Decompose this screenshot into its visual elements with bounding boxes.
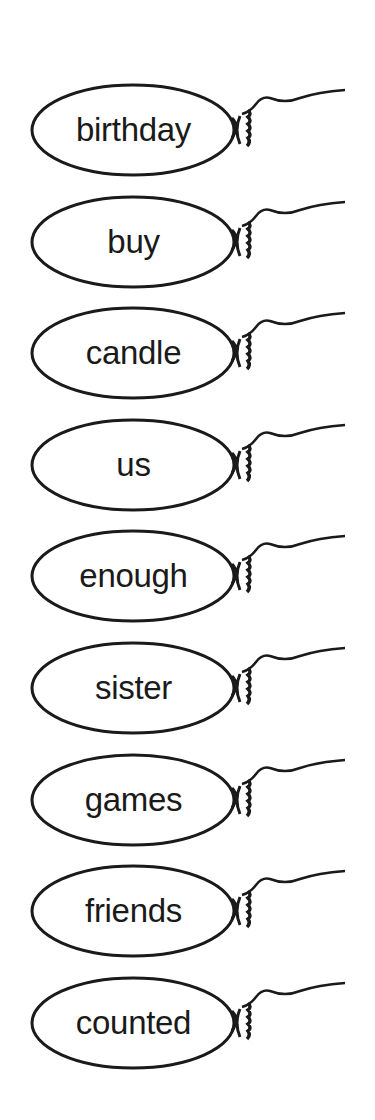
balloon-word-list: birthday buy candle us enough sister gam…	[0, 0, 375, 1120]
balloon-word: buy	[32, 214, 235, 270]
balloon: birthday	[0, 74, 375, 186]
balloon-word: counted	[32, 995, 235, 1051]
balloon-word: birthday	[32, 102, 235, 158]
balloon: us	[0, 409, 375, 521]
balloon-word: enough	[32, 548, 235, 604]
balloon: candle	[0, 297, 375, 409]
balloon-word: games	[32, 772, 235, 828]
balloon: enough	[0, 520, 375, 632]
balloon: counted	[0, 967, 375, 1079]
balloon: sister	[0, 632, 375, 744]
balloon-word: candle	[32, 325, 235, 381]
balloon: friends	[0, 855, 375, 967]
balloon-word: us	[32, 437, 235, 493]
balloon: buy	[0, 186, 375, 298]
balloon: games	[0, 744, 375, 856]
balloon-word: sister	[32, 660, 235, 716]
balloon-word: friends	[32, 883, 235, 939]
